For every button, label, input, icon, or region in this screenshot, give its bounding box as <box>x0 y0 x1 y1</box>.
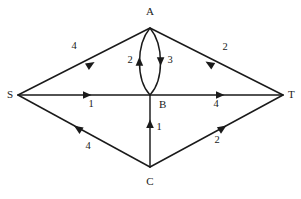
edge-weight-c-s: 4 <box>85 140 91 151</box>
edge-weight-t-a: 2 <box>222 41 227 52</box>
edge-group-curved: 2 3 <box>127 28 172 95</box>
graph-canvas: 4 2 1 4 4 <box>0 0 301 199</box>
arrowhead-s-a <box>85 62 95 70</box>
arrowhead-c-b <box>146 120 154 129</box>
edge-weight-b-a: 2 <box>127 54 132 65</box>
arrowhead-a-b <box>157 57 165 66</box>
node-label-s: S <box>7 88 13 100</box>
edge-group-straight: 4 2 1 4 4 <box>18 28 283 167</box>
arrowhead-b-a <box>136 57 144 66</box>
edge-weight-s-a: 4 <box>71 40 77 51</box>
edge-s-b: 1 <box>18 91 150 109</box>
edge-weight-a-b: 3 <box>167 54 172 65</box>
edge-b-t: 4 <box>150 91 283 109</box>
node-label-a: A <box>146 5 154 17</box>
edge-weight-b-t: 4 <box>213 98 219 109</box>
node-label-t: T <box>288 88 295 100</box>
flow-network-diagram: 4 2 1 4 4 <box>0 0 301 199</box>
edge-c-s: 4 <box>18 95 150 167</box>
edge-weight-c-b: 1 <box>156 121 161 132</box>
node-label-c: C <box>146 175 153 187</box>
edge-line-c-s <box>18 95 150 167</box>
edge-weight-s-b: 1 <box>88 98 93 109</box>
arrowhead-t-a <box>206 62 216 70</box>
edge-weight-c-t: 2 <box>214 134 219 145</box>
node-label-b: B <box>159 98 166 110</box>
